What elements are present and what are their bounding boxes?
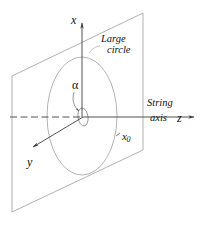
y-axis-line xyxy=(33,117,83,147)
large-circle-label: Large circle xyxy=(101,33,131,55)
string-axis-figure: x y z Large circle String axis α x0 xyxy=(0,0,203,227)
angle-arc xyxy=(73,92,79,111)
large-circle-label-line2: circle xyxy=(101,44,131,55)
x0-tick xyxy=(116,133,120,136)
angle-label-alpha: α xyxy=(72,79,78,92)
axis-label-y: y xyxy=(27,156,32,169)
large-circle-label-line1: Large xyxy=(101,33,126,44)
string-axis-label-line1: String xyxy=(147,97,173,108)
axis-label-z: z xyxy=(177,112,182,125)
large-circle-leader xyxy=(89,46,100,53)
axis-label-x: x xyxy=(71,14,76,27)
radius-label-x0: x0 xyxy=(122,131,130,145)
string-axis-label-line2: axis xyxy=(150,112,167,123)
radius-label-subscript: 0 xyxy=(126,135,130,144)
